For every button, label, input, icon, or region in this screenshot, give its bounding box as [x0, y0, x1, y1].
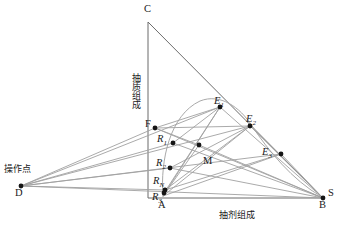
label-r3: R3 [152, 192, 162, 205]
label-c: C [144, 4, 151, 15]
label-e1: E1 [214, 96, 224, 109]
line-E2-B [250, 126, 323, 198]
line-R2-B [170, 168, 323, 198]
point-marker-r2 [168, 166, 173, 171]
line-D-RN [21, 186, 165, 190]
line-D-F [21, 128, 155, 186]
label-b: B [319, 200, 326, 211]
line-D-R1 [21, 143, 173, 186]
label-f: F [145, 119, 151, 130]
point-marker-e3 [279, 152, 284, 157]
label-sub-e3: 3 [268, 152, 272, 160]
operating-point-label: 操作点 [4, 165, 31, 174]
label-e2: E2 [246, 114, 256, 127]
label-r1: R1 [157, 134, 167, 147]
label-s: S [328, 188, 334, 199]
y-axis-label: 抽质组成 [131, 73, 140, 109]
label-m: M [203, 156, 212, 167]
label-e3: E3 [262, 147, 272, 160]
label-sub-e1: 1 [220, 101, 224, 109]
label-sub-r3: 3 [158, 197, 162, 205]
x-axis-label: 抽剂组成 [219, 211, 255, 220]
line-A-E3 [163, 154, 281, 196]
label-sub-e2: 2 [252, 119, 256, 127]
point-marker-m [197, 143, 202, 148]
label-r2: R2 [156, 158, 166, 171]
point-markers [19, 105, 326, 201]
line-M-B [199, 145, 323, 198]
point-marker-f [153, 126, 158, 131]
diagram-svg [0, 0, 347, 238]
point-marker-r3 [162, 191, 167, 196]
label-rn: RN [153, 176, 164, 189]
line-R1-B [173, 143, 323, 198]
label-sub-r1: 1 [163, 139, 167, 147]
line-A-M [163, 145, 199, 196]
ternary-diagram-canvas: CABSDFE1E2E3R1R2RNR3M 抽质组成 抽剂组成 操作点 [0, 0, 347, 238]
balance-lines [155, 107, 323, 198]
label-sub-r2: 2 [162, 163, 166, 171]
label-d: D [15, 188, 23, 199]
point-marker-r1 [171, 141, 176, 146]
label-sub-rn: N [159, 181, 164, 189]
